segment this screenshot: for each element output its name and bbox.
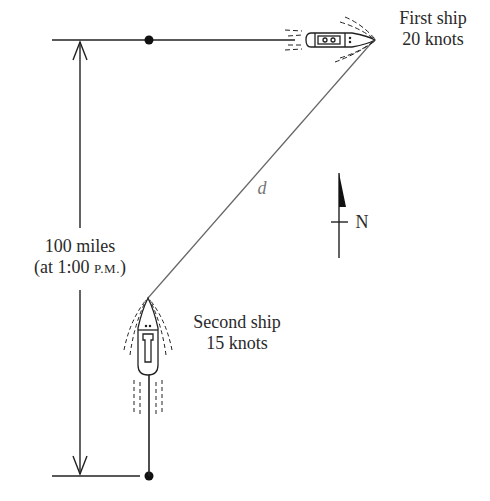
distance-label: 100 miles (at 1:00 P.M.) — [12, 236, 148, 279]
first-ship-start-dot — [145, 36, 154, 45]
first-ship-label: First ship 20 knots — [378, 8, 488, 50]
first-ship-name: First ship — [378, 8, 488, 29]
second-ship-speed: 15 knots — [172, 333, 302, 354]
d-label: d — [252, 178, 272, 199]
north-label: N — [352, 212, 372, 233]
first-ship-speed: 20 knots — [378, 29, 488, 50]
second-ship-icon — [124, 298, 172, 416]
distance-d-line — [148, 40, 374, 298]
distance-time: (at 1:00 P.M.) — [12, 257, 148, 279]
north-arrow-icon — [331, 173, 348, 258]
second-ship-name: Second ship — [172, 312, 302, 333]
distance-value: 100 miles — [12, 236, 148, 257]
first-ship-icon — [285, 17, 375, 62]
second-ship-label: Second ship 15 knots — [172, 312, 302, 354]
